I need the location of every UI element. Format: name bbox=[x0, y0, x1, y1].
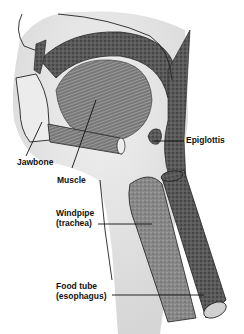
label-muscle: Muscle bbox=[57, 176, 86, 186]
label-epiglottis: Epiglottis bbox=[186, 136, 225, 146]
throat-anatomy-diagram: Jawbone Muscle Epiglottis Windpipe (trac… bbox=[0, 0, 244, 334]
label-esophagus: (esophagus) bbox=[56, 292, 107, 302]
label-jawbone: Jawbone bbox=[17, 158, 53, 168]
label-trachea: (trachea) bbox=[56, 219, 92, 229]
hyoid-end bbox=[117, 138, 125, 154]
